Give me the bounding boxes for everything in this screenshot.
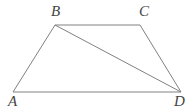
figure-svg — [0, 0, 195, 112]
segment-BD-diagonal — [55, 25, 181, 92]
vertex-label-c: C — [139, 4, 149, 19]
geometry-figure: A B C D — [0, 0, 195, 112]
vertex-label-b: B — [51, 4, 60, 19]
segment-CD — [140, 25, 181, 92]
vertex-label-d: D — [174, 94, 185, 109]
segment-AB — [13, 25, 55, 92]
vertex-label-a: A — [8, 94, 17, 109]
